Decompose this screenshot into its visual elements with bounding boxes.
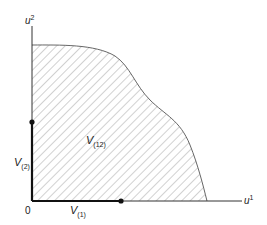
endpoint-dot-v2 [29,119,34,124]
origin-label: 0 [25,205,31,216]
diagram-canvas: u2 u1 0 V(12) V(2) V(1) [0,0,267,225]
endpoint-dot-v1 [118,198,123,203]
y-axis-label: u2 [25,14,35,26]
segment-v1-label: V(1) [70,204,86,219]
feasible-region [32,45,207,201]
segment-v2-label: V(2) [14,156,30,171]
x-axis-label: u1 [244,194,254,206]
